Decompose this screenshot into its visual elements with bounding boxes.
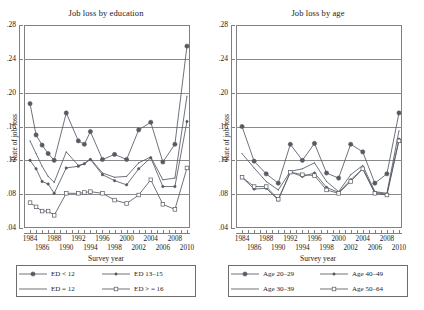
legend-row: ED < 12ED 13–15 (17, 266, 195, 281)
y-axis-tick (231, 25, 235, 26)
y-axis-tick-label: .12 (212, 155, 228, 164)
data-point (66, 151, 67, 152)
series-age-20-29 (240, 111, 401, 185)
y-axis-tick (19, 127, 23, 128)
y-axis-tick (19, 160, 23, 161)
y-axis-tick (231, 228, 235, 229)
data-point (114, 177, 115, 178)
data-point (278, 189, 279, 190)
data-point (240, 175, 244, 179)
data-point (137, 193, 141, 197)
x-axis-tick (357, 230, 358, 233)
data-point (161, 203, 165, 207)
x-axis-tick (296, 230, 297, 233)
x-axis-tick-label: 2004 (138, 235, 164, 243)
data-point (264, 172, 268, 176)
x-axis-tick (387, 230, 388, 233)
legend-table: ED < 12ED 13–15ED = 12ED > = 16 (17, 266, 195, 296)
chart-title-education: Job loss by education (0, 8, 212, 18)
data-point (300, 158, 304, 162)
data-point (186, 96, 187, 97)
data-point (398, 130, 399, 131)
data-point (138, 162, 139, 163)
y-axis-tick-label: .08 (0, 189, 16, 198)
data-point (385, 193, 389, 197)
data-point (337, 176, 341, 180)
data-point (276, 181, 280, 185)
y-axis-tick (19, 93, 23, 94)
x-axis-tick-label: 2010 (174, 244, 200, 252)
data-point (137, 168, 140, 171)
data-point (34, 205, 38, 209)
x-axis-tick (157, 230, 158, 233)
legend-key (17, 266, 51, 281)
data-point (82, 142, 86, 146)
x-axis-label-education: Survey year (0, 254, 212, 263)
legend-label: Age 20–29 (263, 266, 318, 281)
chart-title-age: Job loss by age (212, 8, 424, 18)
data-point (397, 139, 401, 143)
series-lines-age (236, 25, 402, 228)
x-axis-tick-label: 1996 (89, 235, 115, 243)
data-point (28, 102, 32, 106)
x-axis-tick (278, 230, 279, 233)
data-point (83, 162, 86, 165)
data-point (241, 153, 242, 154)
x-axis-tick (393, 230, 394, 233)
x-axis-tick (48, 230, 49, 233)
x-axis-tick (139, 230, 140, 233)
data-point (34, 133, 38, 137)
y-axis-tick (19, 59, 23, 60)
data-point (35, 168, 38, 171)
legend-label: Age 50–64 (352, 281, 407, 296)
x-axis-tick-label: 1984 (229, 235, 255, 243)
x-axis-tick (369, 230, 370, 233)
data-point (42, 166, 43, 167)
panel-education: Job loss by education Rate of job loss .… (0, 0, 212, 310)
data-point (29, 140, 30, 141)
x-axis-tick (327, 230, 328, 233)
x-axis-tick (133, 230, 134, 233)
x-axis-tick (90, 230, 91, 233)
series-line (242, 141, 399, 199)
data-point (41, 180, 44, 183)
x-axis-tick (115, 230, 116, 233)
data-point (264, 185, 268, 189)
data-point (266, 181, 267, 182)
data-point (125, 184, 128, 187)
panel-age: Job loss by age Rate of job loss .04.08.… (212, 0, 424, 310)
data-point (76, 139, 80, 143)
data-point (361, 167, 365, 171)
data-point (88, 129, 92, 133)
y-axis-tick-label: .16 (0, 122, 16, 131)
y-axis-tick (19, 228, 23, 229)
x-axis-tick-label: 1998 (314, 244, 340, 252)
x-axis-tick (284, 230, 285, 233)
y-axis-tick (231, 59, 235, 60)
x-axis-tick-label: 1992 (65, 235, 91, 243)
data-point (150, 157, 153, 160)
x-axis-tick-label: 1994 (289, 244, 315, 252)
x-axis-tick (36, 230, 37, 233)
x-axis-tick (163, 230, 164, 233)
legend-marker (332, 287, 336, 291)
legend-key (229, 266, 263, 281)
data-point (240, 124, 244, 128)
legend-marker (115, 272, 118, 275)
x-axis-tick (314, 230, 315, 233)
data-point (47, 183, 50, 186)
data-point (83, 191, 87, 195)
y-axis-tick (231, 194, 235, 195)
series-ed-12 (28, 44, 189, 164)
legend-age: Age 20–29Age 40–49Age 30–39Age 50–64 (228, 265, 408, 297)
x-axis-tick-label: 2000 (114, 235, 140, 243)
legend-label: ED > = 16 (134, 281, 195, 296)
data-point (173, 208, 177, 212)
x-axis-tick (175, 230, 176, 233)
data-point (65, 167, 68, 170)
x-axis-tick (66, 230, 67, 233)
x-axis-tick-label: 2010 (386, 244, 412, 252)
data-point (373, 181, 377, 185)
data-point (46, 209, 50, 213)
x-axis-tick (321, 230, 322, 233)
